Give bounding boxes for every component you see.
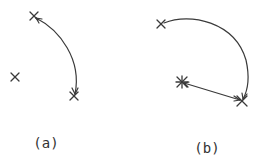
cross-marker-left-a [11, 73, 19, 81]
vector-arrow-b [184, 83, 240, 100]
cross-marker-top-b [157, 20, 165, 28]
panel-b: (b) [157, 19, 248, 156]
panel-a: (a) [11, 12, 78, 151]
diagram-canvas: (a) (b) [0, 0, 261, 160]
panel-label-b: (b) [194, 140, 219, 156]
panel-label-a: (a) [33, 135, 58, 151]
cross-marker-bottom-b [237, 96, 247, 106]
arc-arrow-a [36, 18, 76, 94]
